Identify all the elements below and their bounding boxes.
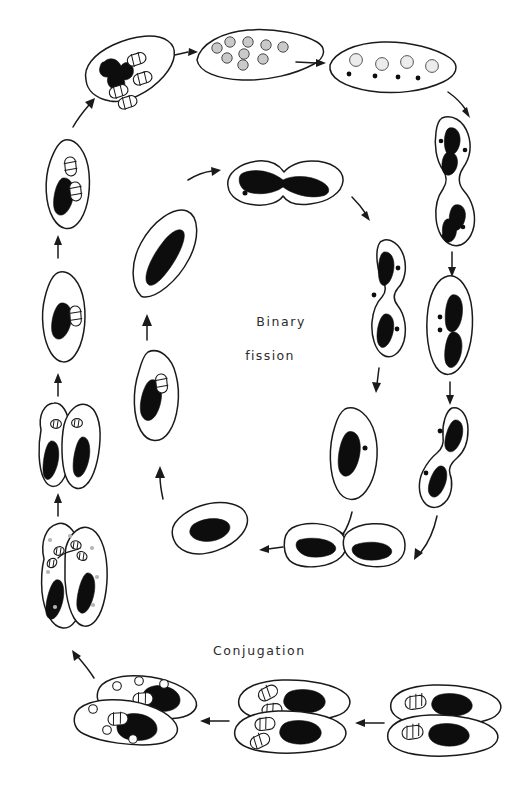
cell-conjugation-stage-11 [435, 117, 474, 246]
micronucleus [372, 293, 377, 298]
vacuole [103, 726, 112, 735]
cytoplasm-speck [48, 538, 52, 542]
nuclear-fragment [243, 37, 253, 47]
micronucleus [416, 76, 421, 81]
cell-conjugation-stage-1 [388, 685, 501, 756]
arrow-stage12-to-stage13 [446, 382, 454, 405]
arrow-bf-stage7-to-stage8 [155, 466, 165, 499]
cell-binary-fission-stage-8 [134, 351, 178, 441]
cell-conjugation-stage-4 [42, 523, 108, 628]
conjugation-label: Conjugation [213, 643, 306, 660]
cell-binary-fission-stage-7 [172, 503, 247, 554]
arrow-bf-stage3-to-stage4 [352, 197, 370, 221]
cytoplasm-speck [91, 603, 95, 607]
paramecium-life-cycle-figure: Binary fission Conjugation [0, 0, 516, 786]
arrow-stage6-to-stage7 [54, 235, 62, 258]
micronucleus [371, 545, 376, 550]
vacuole [113, 682, 122, 691]
micronucleus [461, 225, 466, 230]
vacuole [129, 735, 138, 744]
arrow-stage13-to-stage1 [414, 516, 437, 560]
cell-conjugation-stage-2 [235, 680, 350, 753]
micronucleus [158, 270, 163, 275]
micronucleus [243, 191, 248, 196]
arrow-bf-stage4-to-stage5 [372, 368, 381, 393]
nuclear-fragment [225, 37, 235, 47]
micronucleus [442, 234, 447, 239]
micronucleus [424, 471, 429, 476]
nuclear-fragment [426, 60, 439, 73]
arrow-stage11-to-stage12 [448, 252, 456, 277]
cell-binary-fission-stage-4 [372, 240, 406, 357]
micronucleus [318, 541, 323, 546]
cell-conjugation-stage-10 [330, 42, 456, 93]
nuclear-fragment [212, 43, 222, 53]
cytoplasm-speck [46, 570, 50, 574]
arrow-stage5-to-stage6 [54, 373, 62, 396]
binary-fission-label: Binary fission [234, 297, 306, 398]
arrow-bf-stage6-to-stage7 [259, 545, 283, 553]
cytoplasm-speck [95, 575, 99, 579]
micronucleus [208, 519, 213, 524]
nuclear-fragment [261, 40, 271, 50]
arrow-stage3-to-stage4 [72, 650, 94, 678]
micronucleus [347, 72, 352, 77]
cytoplasm-speck [90, 546, 94, 550]
vacuole [89, 705, 98, 714]
micronucleus [396, 75, 401, 80]
micronucleus [438, 429, 443, 434]
cell-conjugation-stage-7 [46, 140, 89, 229]
cell-binary-fission-stage-5 [330, 408, 377, 500]
micronucleus [438, 315, 443, 320]
micronucleus-striped [69, 306, 83, 327]
cell-conjugation-stage-8 [86, 36, 175, 110]
cell-conjugation-stage-5 [39, 403, 100, 489]
arrow-stage2-to-stage3 [200, 717, 229, 725]
micronucleus-striped [108, 712, 129, 726]
nuclear-fragment [401, 56, 414, 69]
nuclear-fragment [376, 58, 389, 71]
micronucleus [373, 74, 378, 79]
arrow-stage4-to-stage5 [54, 493, 62, 516]
cell-binary-fission-stage-1 [133, 210, 197, 297]
vacuole [160, 680, 169, 689]
nuclear-fragment [238, 60, 248, 70]
arrow-bf-stage8-to-stage1 [142, 314, 152, 340]
cell-conjugation-stage-12 [427, 276, 473, 375]
micronucleus [463, 148, 468, 153]
arrow-stage10-to-stage11 [448, 92, 470, 118]
micronucleus [396, 266, 401, 271]
nuclear-fragment [239, 49, 249, 59]
micronucleus [439, 139, 444, 144]
nuclear-fragment [278, 42, 288, 52]
cytoplasm-speck [53, 605, 57, 609]
nuclear-fragment [258, 54, 268, 64]
cell-conjugation-stage-6 [43, 272, 85, 362]
cell-binary-fission-stage-3 [228, 161, 343, 205]
cytoplasm-speck [68, 534, 72, 538]
nuclear-fragment [350, 54, 363, 67]
arrow-stage7-to-stage8 [73, 98, 95, 127]
cell-conjugation-stage-9 [197, 30, 323, 80]
micronucleus [363, 446, 368, 451]
cell-conjugation-stage-13 [419, 408, 468, 508]
binary-fission-label-line1: Binary [256, 314, 306, 329]
micronucleus [168, 247, 173, 252]
arrow-bf-stage2-to-stage3 [188, 167, 221, 180]
cell-conjugation-stage-3 [74, 676, 196, 745]
arrow-stage1-to-stage2 [355, 719, 384, 727]
micronucleus [395, 327, 400, 332]
micronucleus [438, 328, 443, 333]
micronucleus [323, 188, 328, 193]
binary-fission-label-line2: fission [234, 348, 306, 365]
vacuole [135, 677, 144, 686]
nuclear-fragment [222, 53, 232, 63]
